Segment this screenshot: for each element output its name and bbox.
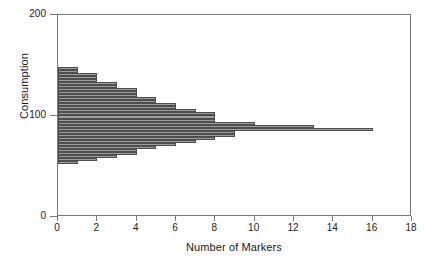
x-axis-tick-label: 12 (278, 222, 308, 233)
y-axis-tick (50, 115, 57, 116)
x-axis-tick-label: 16 (357, 222, 387, 233)
plot-area (57, 14, 411, 216)
x-axis-tick-label: 4 (121, 222, 151, 233)
y-axis-title: Consumption (18, 16, 30, 156)
x-axis-tick-label: 10 (239, 222, 269, 233)
x-axis-tick (175, 216, 176, 221)
x-axis-tick-label: 6 (160, 222, 190, 233)
bar (58, 161, 78, 164)
x-axis-tick (254, 216, 255, 221)
x-axis-tick-label: 18 (396, 222, 425, 233)
x-axis-tick-label: 8 (199, 222, 229, 233)
bars-layer (58, 15, 410, 215)
x-axis-tick (411, 216, 412, 221)
x-axis-tick (136, 216, 137, 221)
x-axis-tick (96, 216, 97, 221)
chart-figure: 0100200 024681012141618 Consumption Numb… (0, 0, 425, 266)
x-axis-tick (332, 216, 333, 221)
x-axis-tick-label: 14 (317, 222, 347, 233)
x-axis-tick (293, 216, 294, 221)
y-axis-tick-label: 0 (6, 210, 46, 221)
x-axis-tick (57, 216, 58, 221)
y-axis-tick (50, 216, 57, 217)
x-axis-tick-label: 2 (81, 222, 111, 233)
x-axis-tick (214, 216, 215, 221)
x-axis-title: Number of Markers (57, 241, 411, 253)
x-axis-tick (372, 216, 373, 221)
y-axis-tick (50, 14, 57, 15)
x-axis-tick-label: 0 (42, 222, 72, 233)
